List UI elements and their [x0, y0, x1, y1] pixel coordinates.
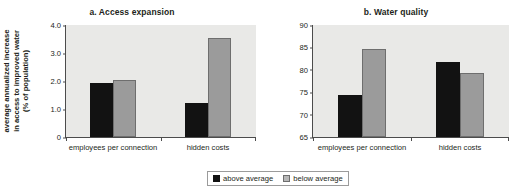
- legend-swatch-below-average-icon: [283, 175, 290, 182]
- chart-a-ytick-4: 4.0: [50, 21, 66, 30]
- chart-b-xtick-left: [313, 137, 314, 141]
- chart-b-ytick-2: 75: [300, 88, 313, 97]
- chart-b-bar-below-1: [460, 73, 484, 137]
- legend-label-above-average: above average: [223, 174, 273, 183]
- chart-b-xlabel-0: employees per connection: [318, 143, 407, 152]
- chart-b-ytick-4: 85: [300, 43, 313, 52]
- chart-b-xtick-mid: [411, 137, 412, 141]
- chart-b-plot-area: 65 70 75 80 85 90 employees per connecti…: [312, 25, 509, 138]
- figure: a. Access expansion average annualized i…: [0, 0, 528, 194]
- chart-a-title: a. Access expansion: [0, 7, 264, 17]
- legend: above average below average: [207, 171, 349, 186]
- chart-a-xtick-right: [255, 137, 256, 141]
- chart-b-bar-above-1: [436, 62, 460, 137]
- chart-a-ytick-1: 1.0: [50, 105, 66, 114]
- legend-swatch-above-average-icon: [213, 175, 220, 182]
- chart-a-bar-below-0: [113, 80, 136, 137]
- chart-a-plot-area: 0 1.0 2.0 3.0 4.0 employees per connecti…: [65, 25, 256, 138]
- chart-b-ytick-3: 80: [300, 65, 313, 74]
- chart-panel-a: a. Access expansion average annualized i…: [0, 0, 264, 160]
- chart-a-ytick-0: 0: [57, 133, 66, 142]
- legend-label-below-average: below average: [293, 174, 342, 183]
- chart-b-ytick-5: 90: [300, 21, 313, 30]
- chart-a-y-axis-title: average annualized increase in access to…: [2, 23, 36, 139]
- chart-a-xtick-mid: [161, 137, 162, 141]
- chart-a-bar-above-1: [185, 103, 208, 137]
- chart-a-xlabel-1: hidden costs: [187, 143, 230, 152]
- chart-b-bar-below-0: [362, 49, 386, 137]
- chart-a-bar-below-1: [208, 38, 231, 137]
- chart-a-bar-above-0: [90, 83, 113, 137]
- legend-item-below-average: below average: [283, 174, 342, 183]
- chart-a-ytick-2: 2.0: [50, 77, 66, 86]
- chart-panel-b: b. Water quality % of sample passing chl…: [264, 0, 528, 160]
- chart-a-xtick-left: [66, 137, 67, 141]
- chart-a-xlabel-0: employees per connection: [69, 143, 158, 152]
- chart-b-ytick-0: 65: [300, 133, 313, 142]
- chart-b-xlabel-1: hidden costs: [439, 143, 482, 152]
- legend-item-above-average: above average: [213, 174, 273, 183]
- chart-b-title: b. Water quality: [264, 7, 528, 17]
- chart-b-bar-above-0: [338, 95, 362, 137]
- chart-b-ytick-1: 70: [300, 110, 313, 119]
- chart-a-ytick-3: 3.0: [50, 49, 66, 58]
- chart-b-xtick-right: [508, 137, 509, 141]
